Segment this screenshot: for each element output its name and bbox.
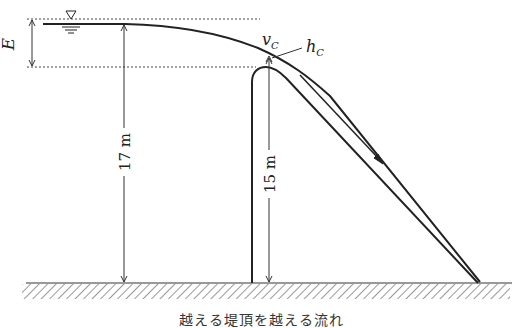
- energy-head-label: E: [0, 38, 18, 50]
- flow-direction-arrow: [300, 75, 383, 164]
- critical-depth-label: hC: [306, 37, 324, 58]
- critical-velocity-subscript: C: [271, 40, 279, 51]
- critical-velocity-symbol: v: [262, 30, 271, 49]
- lower-nappe: [266, 63, 480, 282]
- figure-caption: 越える堤頂を越える流れ: [0, 309, 522, 328]
- critical-velocity-label: vC: [262, 30, 279, 51]
- weir-height-label: 15 m: [261, 150, 279, 198]
- critical-depth-symbol: h: [306, 37, 316, 56]
- upstream-height-label: 17 m: [116, 128, 134, 176]
- ground-hatching: [22, 284, 510, 299]
- critical-depth-subscript: C: [316, 47, 324, 58]
- water-level-icon: [62, 11, 80, 33]
- weir-body: [252, 67, 478, 283]
